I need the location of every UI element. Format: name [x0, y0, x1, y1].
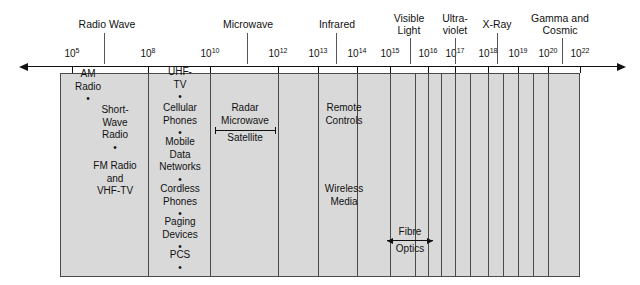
technology-label: Short-WaveRadio•	[101, 104, 128, 154]
axis-tick-10-12	[278, 66, 279, 73]
technology-label: UHF-TV•	[168, 66, 192, 104]
band-divider-2	[278, 73, 279, 277]
technology-label: AMRadio•	[75, 68, 101, 106]
band-divider-12	[503, 73, 504, 277]
axis-tick-label-12: 1012	[269, 48, 288, 59]
axis-tick-label-16: 1016	[419, 48, 438, 59]
band-divider-11	[488, 73, 489, 277]
axis-tick-label-10: 1010	[201, 48, 220, 59]
band-divider-5	[390, 73, 391, 277]
technology-label: CellularPhones•	[163, 102, 197, 140]
spectrum-category-label: Gamma andCosmic	[531, 12, 589, 36]
category-leader-line	[247, 33, 248, 64]
axis-tick-10-8	[148, 66, 149, 73]
technology-label: CordlessPhones•	[160, 183, 199, 221]
category-leader-line	[410, 38, 411, 64]
band-divider-14	[533, 73, 534, 277]
axis-tick-label-5: 105	[64, 48, 79, 59]
axis-tick-10-17	[455, 66, 456, 73]
technology-label: WirelessMedia	[325, 183, 363, 208]
radar-microwave-satellite-span	[215, 130, 275, 131]
axis-tick-10-18	[488, 66, 489, 73]
spectrum-category-label: Ultra-violet	[442, 12, 468, 36]
axis-tick-10-16	[428, 66, 429, 73]
axis-tick-10-15	[390, 66, 391, 73]
axis-tick-10-22	[580, 66, 581, 73]
axis-tick-label-13: 1013	[309, 48, 328, 59]
band-divider-3	[318, 73, 319, 277]
frequency-axis-line	[28, 66, 617, 67]
technology-label: Radar	[231, 102, 258, 115]
radar-microwave-satellite-span-cap-1	[275, 127, 276, 134]
spectrum-band	[60, 73, 580, 277]
category-leader-line	[562, 38, 563, 64]
technology-label: MobileDataNetworks•	[159, 136, 201, 186]
category-leader-line	[455, 38, 456, 64]
axis-tick-label-19: 1019	[509, 48, 528, 59]
axis-tick-10-19	[518, 66, 519, 73]
axis-tick-label-22: 1022	[571, 48, 590, 59]
axis-tick-10-13	[318, 66, 319, 73]
electromagnetic-spectrum-figure: 1051081010101210131014101510161017101810…	[0, 0, 640, 285]
fibre-optics-span-arrow-right-icon	[427, 238, 433, 244]
spectrum-category-label: Microwave	[223, 18, 273, 30]
technology-label: FM RadioandVHF-TV	[93, 160, 136, 198]
axis-tick-label-15: 1015	[381, 48, 400, 59]
axis-tick-label-18: 1018	[479, 48, 498, 59]
spectrum-category-label: X-Ray	[482, 18, 511, 30]
technology-label: RemoteControls	[325, 102, 362, 127]
band-divider-13	[518, 73, 519, 277]
axis-arrow-left-icon	[19, 63, 28, 71]
band-divider-1	[210, 73, 211, 277]
radar-microwave-satellite-span-cap-0	[215, 127, 216, 134]
band-divider-0	[148, 73, 149, 277]
spectrum-category-label: Radio Wave	[79, 18, 136, 30]
spectrum-category-label: VisibleLight	[394, 12, 425, 36]
technology-label: PagingDevices•	[162, 216, 198, 254]
technology-label: Satellite	[227, 132, 263, 145]
axis-arrow-right-icon	[617, 63, 626, 71]
technology-label: Microwave	[221, 115, 269, 128]
technology-label: Fibre	[399, 226, 422, 239]
axis-tick-10-20	[548, 66, 549, 73]
axis-tick-10-14	[357, 66, 358, 73]
spectrum-category-label: Infrared	[319, 18, 355, 30]
band-divider-8	[441, 73, 442, 277]
band-divider-7	[428, 73, 429, 277]
band-divider-9	[455, 73, 456, 277]
technology-label: PCS•	[170, 249, 191, 274]
axis-tick-label-8: 108	[140, 48, 155, 59]
band-divider-10	[470, 73, 471, 277]
axis-tick-label-20: 1020	[539, 48, 558, 59]
category-leader-line	[497, 33, 498, 64]
band-divider-15	[548, 73, 549, 277]
technology-label: Optics	[396, 243, 424, 256]
fibre-optics-span-arrow-left-icon	[387, 238, 393, 244]
axis-tick-10-5	[72, 66, 73, 73]
axis-tick-label-14: 1014	[348, 48, 367, 59]
axis-tick-10-10	[210, 66, 211, 73]
category-leader-line	[104, 33, 105, 64]
category-leader-line	[336, 33, 337, 64]
